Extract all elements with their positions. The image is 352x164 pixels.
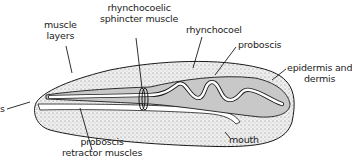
label-sphincter-muscle: rhynchocoelic sphincter muscle bbox=[100, 3, 178, 24]
label-left-truncated: s bbox=[0, 104, 5, 115]
label-epidermis-dermis: epidermis and dermis bbox=[287, 63, 352, 84]
label-muscle-layers: muscle layers bbox=[44, 20, 77, 41]
label-retractor-muscles: proboscis retractor muscles bbox=[62, 137, 142, 158]
label-line: proboscis bbox=[62, 137, 142, 148]
label-rhynchocoel: rhynchocoel bbox=[186, 25, 242, 36]
label-proboscis: proboscis bbox=[238, 40, 281, 51]
label-mouth: mouth bbox=[229, 135, 259, 146]
label-line: dermis bbox=[287, 74, 352, 85]
label-line: rhynchocoelic bbox=[100, 3, 178, 14]
label-line: sphincter muscle bbox=[100, 14, 178, 25]
label-line: layers bbox=[44, 31, 77, 42]
label-line: muscle bbox=[44, 20, 77, 31]
label-line: retractor muscles bbox=[62, 148, 142, 159]
label-line: epidermis and bbox=[287, 63, 352, 74]
